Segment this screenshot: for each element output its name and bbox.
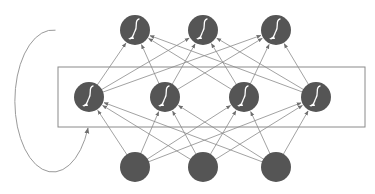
output-layer-node (188, 15, 218, 45)
hidden-layer-node (229, 82, 259, 112)
connections (94, 35, 311, 163)
connection-edge (94, 43, 126, 89)
connection-edge (211, 105, 303, 162)
connection-edge (98, 110, 130, 159)
hidden-layer-node (301, 82, 331, 112)
rnn-diagram (0, 0, 375, 194)
hidden-layer-node (150, 82, 180, 112)
output-layer-node (261, 15, 291, 45)
connection-edge (179, 106, 269, 163)
connection-edge (103, 105, 196, 162)
nodes (74, 15, 331, 182)
connection-edge (139, 112, 159, 159)
connection-edge (281, 111, 309, 159)
output-layer-node (120, 15, 150, 45)
input-layer-node (120, 152, 150, 182)
hidden-layer-node (74, 82, 104, 112)
input-layer-node (188, 152, 218, 182)
connection-edge (173, 111, 199, 159)
input-layer-node (261, 152, 291, 182)
